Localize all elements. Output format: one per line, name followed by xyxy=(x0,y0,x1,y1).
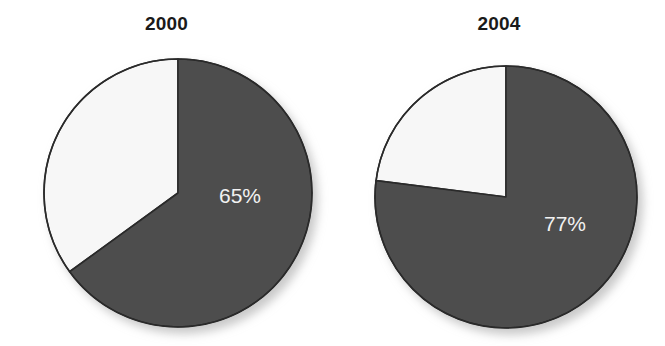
chart-panel-2004: 2004 77% xyxy=(333,0,665,346)
slice-value-label-2000: 65% xyxy=(219,184,261,207)
pie-svg-2000: 65% xyxy=(0,0,333,346)
pie-chart-figure: 2000 65% 2004 xyxy=(0,0,665,346)
pie-chart-2004: 77% xyxy=(333,0,665,346)
chart-panel-2000: 2000 65% xyxy=(0,0,333,346)
pie-chart-2000: 65% xyxy=(0,0,333,346)
pie-svg-2004: 77% xyxy=(333,0,665,346)
light-slice-2004 xyxy=(376,66,506,197)
pie-body-2000 xyxy=(44,59,312,327)
slice-value-label-2004: 77% xyxy=(544,212,586,235)
pie-body-2004 xyxy=(375,66,637,328)
